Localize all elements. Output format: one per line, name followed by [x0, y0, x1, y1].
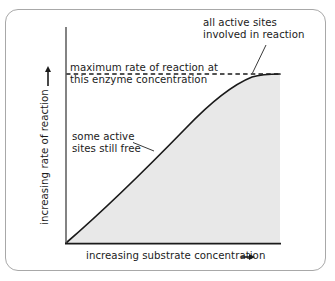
- x-axis-label: increasing substrate concentration: [86, 250, 265, 261]
- annotation-all-active-sites-line2: involved in reaction: [203, 29, 305, 41]
- annotation-some-active-sites: some active sites still free: [72, 131, 141, 154]
- annotation-maximum-rate-line1: maximum rate of reaction at: [70, 62, 218, 74]
- annotation-all-active-sites-line1: all active sites: [203, 17, 305, 29]
- y-axis-label: increasing rate of reaction: [39, 87, 53, 227]
- annotation-maximum-rate: maximum rate of reaction at this enzyme …: [70, 62, 218, 85]
- arrow-right-icon: [241, 253, 255, 261]
- annotation-some-active-sites-line2: sites still free: [72, 143, 141, 155]
- annotation-some-active-sites-line1: some active: [72, 131, 141, 143]
- figure-container: all active sites involved in reaction ma…: [0, 0, 335, 281]
- annotation-maximum-rate-line2: this enzyme concentration: [70, 74, 218, 86]
- annotation-all-active-sites: all active sites involved in reaction: [203, 17, 305, 40]
- leader-line-all-active-sites: [253, 45, 267, 73]
- arrow-up-icon: [43, 66, 53, 86]
- curve-shaded-area: [66, 74, 280, 243]
